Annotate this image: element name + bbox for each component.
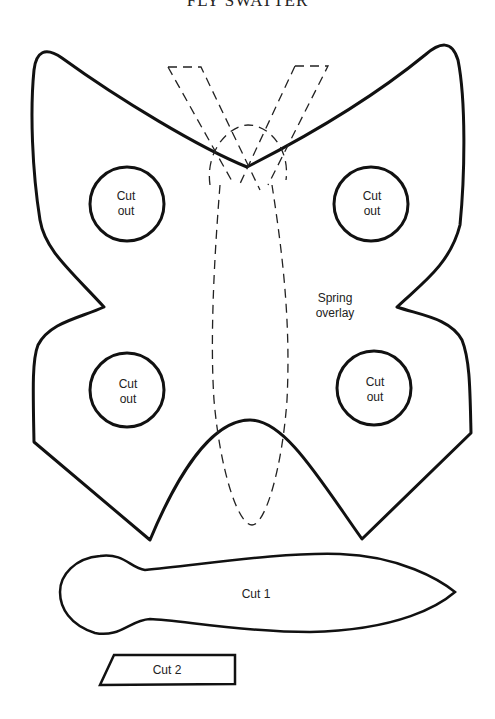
cutout-label-bottom-right: Cut bbox=[366, 375, 385, 389]
tab-piece-label: Cut 2 bbox=[153, 663, 182, 677]
cutout-label-top-left: Cut bbox=[117, 189, 136, 203]
cutout-label-bottom-right-2: out bbox=[367, 390, 384, 404]
swatter-body-outline bbox=[32, 45, 471, 540]
cutout-label-top-right-2: out bbox=[364, 204, 381, 218]
spring-overlay-label: Spring bbox=[318, 291, 353, 305]
spring-overlay-label-2: overlay bbox=[316, 306, 355, 320]
handle-piece-label: Cut 1 bbox=[242, 587, 271, 601]
pattern-diagram: Cut out Cut out Cut out Cut out Spring o… bbox=[0, 0, 495, 719]
cutout-label-bottom-left: Cut bbox=[119, 377, 138, 391]
cutout-label-top-left-2: out bbox=[118, 204, 135, 218]
cutout-label-bottom-left-2: out bbox=[120, 392, 137, 406]
cutout-label-top-right: Cut bbox=[363, 189, 382, 203]
